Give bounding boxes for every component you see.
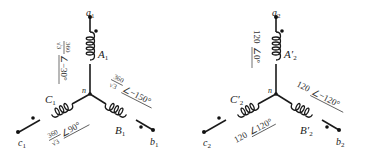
svg-text:120: 120 [295, 79, 312, 94]
svg-text:−150°: −150° [128, 87, 153, 106]
coil-label-A2: A′2 [283, 48, 297, 62]
terminal-b2-dot [337, 128, 341, 132]
coil-B2 [290, 101, 314, 119]
svg-text:360: 360 [64, 42, 72, 53]
svg-text:∠: ∠ [252, 47, 262, 55]
polarity-dot-B2 [325, 125, 329, 129]
voltage-label-B2: 120 ∠ −120° [295, 79, 348, 112]
wire-C2-to-c2 [205, 120, 226, 132]
voltage-label-A1: 360 √3 ∠ −30° [55, 41, 72, 84]
terminal-c2-dot [202, 130, 206, 134]
voltage-label-B1: 360 √3 ∠ −150° [107, 72, 158, 109]
svg-text:120: 120 [252, 30, 262, 44]
terminal-b1-dot [151, 128, 155, 132]
terminal-label-c1: c1 [18, 137, 26, 150]
svg-text:0°: 0° [252, 55, 262, 64]
wire-n-to-B2 [276, 94, 292, 104]
wire-B2-to-b2 [322, 120, 339, 130]
polarity-dot-C2 [217, 116, 221, 120]
svg-text:∠: ∠ [59, 55, 69, 63]
coil-label-A1: A1 [97, 48, 109, 62]
terminal-label-b1: b1 [150, 136, 159, 149]
polarity-dot-A2 [280, 29, 284, 33]
left-wye-circuit: a1 A1 n C1 B1 c1 b1 360 √3 ∠ −30° 360 √3… [16, 7, 159, 150]
voltage-label-C1: 360 √3 ∠ 90° [45, 113, 91, 148]
coil-label-C1: C1 [45, 93, 56, 107]
voltage-label-A2: 120 ∠ 0° [252, 30, 262, 68]
polarity-dot-A1 [94, 29, 98, 33]
coil-B1 [104, 101, 128, 119]
terminal-c1-dot [16, 130, 20, 134]
neutral-label-left: n [82, 86, 86, 95]
terminal-label-a1: a1 [86, 7, 95, 20]
coil-A1 [86, 32, 94, 60]
svg-text:√3: √3 [55, 42, 63, 50]
terminal-label-a2: a2 [272, 7, 281, 20]
terminal-label-c2: c2 [203, 137, 211, 150]
wire-n-to-B1 [90, 94, 106, 104]
coil-label-B1: B1 [115, 124, 126, 138]
coil-label-C2: C′2 [230, 93, 244, 107]
wire-n-to-C1 [72, 94, 90, 104]
polarity-dot-B1 [139, 125, 143, 129]
svg-text:120: 120 [232, 129, 249, 144]
right-wye-circuit: a2 A′2 n C′2 B′2 c2 b2 120 ∠ 0° 120 ∠ −1… [202, 7, 348, 150]
voltage-label-C2: 120 ∠ 120° [232, 115, 276, 144]
wire-C1-to-c1 [19, 120, 40, 132]
coil-label-B2: B′2 [300, 124, 313, 138]
wire-B1-to-b1 [136, 120, 153, 130]
neutral-label-right: n [268, 86, 272, 95]
polarity-dot-C1 [31, 116, 35, 120]
coil-A2 [272, 32, 280, 60]
svg-text:−30°: −30° [59, 63, 69, 81]
wire-n-to-C2 [258, 94, 276, 104]
svg-text:−120°: −120° [317, 90, 342, 109]
diagram-canvas: a1 A1 n C1 B1 c1 b1 360 √3 ∠ −30° 360 √3… [0, 0, 370, 158]
terminal-label-b2: b2 [336, 136, 345, 149]
wye-circuits-diagram: a1 A1 n C1 B1 c1 b1 360 √3 ∠ −30° 360 √3… [0, 0, 370, 158]
svg-text:90°: 90° [66, 120, 82, 135]
